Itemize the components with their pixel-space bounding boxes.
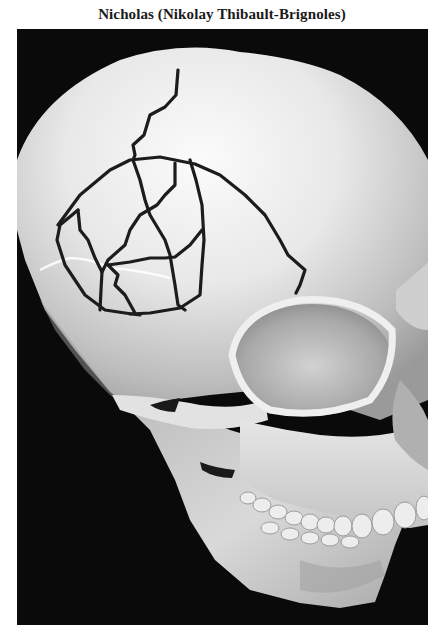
skull-illustration [17,29,428,625]
figure-title: Nicholas (Nikolay Thibault-Brignoles) [0,6,444,23]
skull-photograph [17,29,428,625]
